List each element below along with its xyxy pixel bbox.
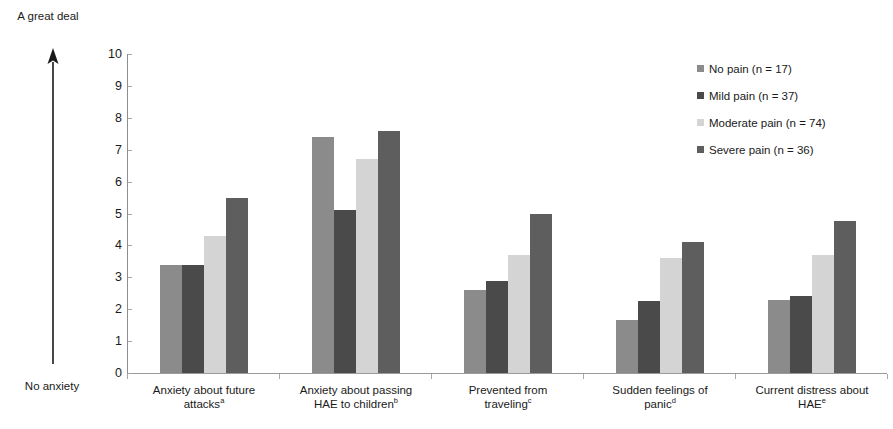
legend-entry: Moderate pain (n = 74) — [697, 109, 893, 136]
category-footnote-marker: c — [528, 396, 532, 405]
y-tick-mark — [128, 277, 132, 278]
bar — [660, 258, 682, 373]
bar — [486, 281, 508, 374]
legend-swatch-icon — [697, 92, 704, 99]
x-axis-category-label: Anxiety about passingHAE to childrenb — [280, 383, 432, 411]
category-label-line: Anxiety about future — [128, 383, 280, 397]
axis-top-label: A great deal — [0, 10, 96, 24]
bar — [530, 214, 552, 374]
category-label-line: Sudden feelings of — [584, 383, 736, 397]
bar — [312, 137, 334, 373]
legend-entry: Severe pain (n = 36) — [697, 136, 893, 163]
y-tick-mark — [128, 309, 132, 310]
bar — [356, 159, 378, 373]
x-axis-tick — [127, 374, 128, 379]
legend-swatch-icon — [697, 65, 704, 72]
x-axis-tick — [583, 374, 584, 379]
axis-bottom-label: No anxiety — [0, 380, 104, 392]
legend-label: Moderate pain (n = 74) — [709, 117, 826, 129]
y-tick-label: 0 — [96, 367, 122, 379]
bar — [334, 210, 356, 373]
bar — [812, 255, 834, 373]
y-tick-mark — [128, 341, 132, 342]
x-axis-tick — [431, 374, 432, 379]
x-axis-tick — [887, 374, 888, 379]
category-label-line: attacksa — [128, 397, 280, 411]
up-arrow-icon — [47, 48, 59, 364]
y-tick-mark — [128, 54, 132, 55]
bar — [378, 131, 400, 373]
legend-entry: No pain (n = 17) — [697, 55, 893, 82]
category-label-line: panicd — [584, 397, 736, 411]
y-tick-label: 1 — [96, 335, 122, 347]
x-axis-tick — [279, 374, 280, 379]
y-tick-mark — [128, 214, 132, 215]
y-tick-label: 4 — [96, 239, 122, 251]
x-axis-category-label: Prevented fromtravelingc — [432, 383, 584, 411]
y-tick-label: 8 — [96, 112, 122, 124]
legend-swatch-icon — [697, 119, 704, 126]
legend-entry: Mild pain (n = 37) — [697, 82, 893, 109]
y-tick-mark — [128, 150, 132, 151]
category-footnote-marker: b — [394, 396, 398, 405]
y-tick-mark — [128, 182, 132, 183]
bar — [204, 236, 226, 373]
category-label-line: Current distress about — [736, 383, 888, 397]
y-tick-label: 5 — [96, 208, 122, 220]
category-footnote-marker: a — [220, 396, 224, 405]
category-label-line: travelingc — [432, 397, 584, 411]
x-axis-category-label: Sudden feelings ofpanicd — [584, 383, 736, 411]
y-tick-mark — [128, 245, 132, 246]
category-label-line: Anxiety about passing — [280, 383, 432, 397]
category-label-line: HAE to childrenb — [280, 397, 432, 411]
category-label-line: HAEe — [736, 397, 888, 411]
x-axis-tick — [735, 374, 736, 379]
bar — [160, 265, 182, 373]
bar — [226, 198, 248, 373]
x-axis-category-label: Current distress aboutHAEe — [736, 383, 888, 411]
legend-label: Severe pain (n = 36) — [709, 144, 814, 156]
legend-label: No pain (n = 17) — [709, 63, 792, 75]
bar — [638, 301, 660, 373]
chart-legend: No pain (n = 17)Mild pain (n = 37)Modera… — [697, 55, 893, 163]
bar — [768, 300, 790, 373]
category-footnote-marker: d — [672, 396, 676, 405]
axis-annotation: A great deal No anxiety — [0, 0, 96, 429]
bar — [790, 296, 812, 373]
x-axis-category-labels: Anxiety about futureattacksaAnxiety abou… — [96, 383, 893, 429]
bar — [464, 290, 486, 373]
category-label-line: Prevented from — [432, 383, 584, 397]
x-axis-line — [127, 373, 887, 374]
y-tick-label: 3 — [96, 271, 122, 283]
bar — [508, 255, 530, 373]
bar — [682, 242, 704, 373]
x-axis-category-label: Anxiety about futureattacksa — [128, 383, 280, 411]
bar — [834, 221, 856, 373]
y-axis-tick-labels: 012345678910 — [96, 50, 122, 374]
legend-swatch-icon — [697, 146, 704, 153]
y-tick-mark — [128, 373, 132, 374]
y-tick-label: 9 — [96, 80, 122, 92]
legend-label: Mild pain (n = 37) — [709, 90, 798, 102]
category-footnote-marker: e — [822, 396, 826, 405]
y-tick-label: 2 — [96, 303, 122, 315]
bar — [616, 320, 638, 373]
y-tick-label: 7 — [96, 144, 122, 156]
y-tick-label: 6 — [96, 176, 122, 188]
bar — [182, 265, 204, 373]
y-tick-mark — [128, 118, 132, 119]
y-tick-label: 10 — [96, 48, 122, 60]
y-tick-mark — [128, 86, 132, 87]
